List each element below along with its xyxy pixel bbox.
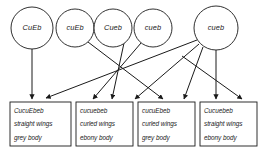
- offspring-wing-phenotype: straight wings: [14, 120, 53, 128]
- offspring-layer: CucuEbebstraight wingsgrey bodycucuebebc…: [10, 102, 257, 146]
- offspring-genotype: cucuEbeb: [142, 107, 171, 114]
- gamete-node: cueb: [134, 9, 172, 47]
- offspring-node: cucuEbebcurled wingsgrey body: [138, 102, 195, 146]
- offspring-node: cucuebebcurled wingsebony body: [76, 102, 133, 146]
- inheritance-arrow: [135, 44, 199, 99]
- offspring-genotype: cucuebeb: [80, 107, 108, 114]
- offspring-wing-phenotype: straight wings: [204, 120, 243, 128]
- gamete-node: cuEb: [56, 9, 94, 47]
- offspring-wing-phenotype: curled wings: [142, 120, 178, 128]
- gamete-layer: CuEbcuEbCuebcuebcueb: [11, 6, 238, 50]
- offspring-genotype: CucuEbeb: [14, 107, 44, 114]
- offspring-wing-phenotype: curled wings: [80, 120, 116, 128]
- gamete-cross-diagram: CuEbcuEbCuebcuebcueb CucuEbebstraight wi…: [0, 0, 267, 153]
- gamete-node: Cueb: [94, 9, 132, 47]
- gamete-label: cueb: [145, 23, 161, 32]
- gamete-label: CuEb: [23, 23, 42, 32]
- gamete-node: CuEb: [11, 7, 53, 49]
- offspring-body-phenotype: grey body: [142, 134, 170, 142]
- gamete-node: cueb: [194, 6, 238, 50]
- gamete-label: cuEb: [66, 23, 83, 32]
- inheritance-arrow: [182, 56, 242, 99]
- offspring-node: CucuEbebstraight wingsgrey body: [10, 102, 71, 146]
- offspring-node: Cucuebebstraight wingsebony body: [200, 102, 257, 146]
- inheritance-arrow: [112, 43, 124, 99]
- gamete-label: cueb: [208, 23, 224, 32]
- offspring-body-phenotype: grey body: [14, 134, 42, 142]
- inheritance-arrow: [88, 42, 163, 99]
- offspring-genotype: Cucuebeb: [204, 107, 233, 114]
- offspring-body-phenotype: ebony body: [204, 134, 237, 142]
- offspring-body-phenotype: ebony body: [80, 134, 113, 142]
- inheritance-arrow: [46, 40, 197, 98]
- gamete-label: Cueb: [104, 23, 122, 32]
